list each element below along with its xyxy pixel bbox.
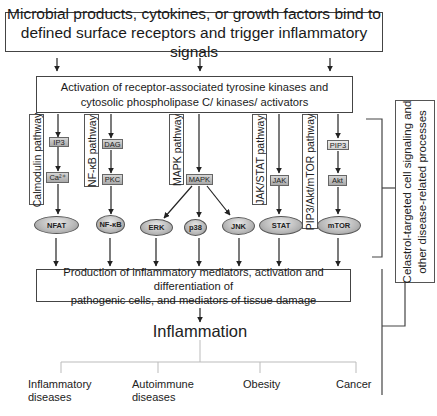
jakstat-pathway-text: JAK/STAT pathway xyxy=(254,115,266,204)
disease-inflammatory-line-2: diseases xyxy=(28,391,92,404)
node-calcium: Ca²⁺ xyxy=(46,172,69,183)
disease-autoimmune: Autoimmune diseases xyxy=(132,378,194,404)
production-line-2: pathogenic cells, and mediators of tissu… xyxy=(37,293,350,307)
effector-p38: p38 xyxy=(184,219,207,236)
effector-nfat: NFAT xyxy=(34,216,79,234)
celastrol-targets-box: Celastrol-targeted cell signaling and ot… xyxy=(395,100,435,283)
pip3-pathway-label: PIP3/Akt/mTOR pathway xyxy=(302,114,318,229)
disease-obesity: Obesity xyxy=(243,378,280,391)
nfkb-pathway-label: NF-κB pathway xyxy=(84,114,99,187)
jakstat-pathway-label: JAK/STAT pathway xyxy=(252,114,267,205)
disease-cancer-line-1: Cancer xyxy=(336,378,371,391)
effector-erk: ERK xyxy=(140,219,173,236)
nfkb-pathway-text: NF-κB pathway xyxy=(86,115,98,187)
celastrol-targets-text: Celastrol-targeted cell signaling and ot… xyxy=(400,100,430,283)
mapk-pathway-text: MAPK pathway xyxy=(171,114,183,186)
effector-stat: STAT xyxy=(259,216,303,235)
node-pip3: PIP3 xyxy=(327,140,349,150)
disease-cancer: Cancer xyxy=(336,378,371,391)
effector-mtor: mTOR xyxy=(317,216,361,235)
disease-inflammatory-line-1: Inflammatory xyxy=(28,378,92,391)
disease-autoimmune-line-1: Autoimmune xyxy=(132,378,194,391)
celastrol-line-1: Celastrol-targeted cell signaling and xyxy=(400,100,415,283)
trigger-line-1: Microbial products, cytokines, or growth… xyxy=(6,4,382,23)
node-akt: Akt xyxy=(328,175,347,186)
disease-inflammatory: Inflammatory diseases xyxy=(28,378,92,404)
activation-line-1: Activation of receptor-associated tyrosi… xyxy=(61,80,328,95)
effector-nfkb: NF-κB xyxy=(96,215,125,234)
node-mapk: MAPK xyxy=(186,174,213,185)
production-box: Production of inflammatory mediators, ac… xyxy=(36,269,351,302)
pip3-pathway-text: PIP3/Akt/mTOR pathway xyxy=(304,113,316,230)
node-dag: DAG xyxy=(102,139,123,149)
activation-line-2: cytosolic phospholipase C/ kinases/ acti… xyxy=(61,95,328,110)
trigger-box: Microbial products, cytokines, or growth… xyxy=(5,12,383,52)
node-jak: JAK xyxy=(270,175,289,186)
connector-lines xyxy=(0,0,437,416)
calmodulin-pathway-text: Calmodulin pathway xyxy=(31,112,43,207)
effector-jnk: JNK xyxy=(222,217,255,235)
inflammation-label: Inflammation xyxy=(150,322,250,341)
celastrol-line-2: other disease-related processes xyxy=(415,100,430,283)
node-pkc: PKC xyxy=(102,174,123,185)
calmodulin-pathway-label: Calmodulin pathway xyxy=(29,114,44,205)
trigger-line-2: defined surface receptors and trigger in… xyxy=(6,23,382,61)
activation-box: Activation of receptor-associated tyrosi… xyxy=(36,76,353,113)
node-ip3: IP3 xyxy=(49,137,69,147)
disease-obesity-line-1: Obesity xyxy=(243,378,280,391)
mapk-pathway-label: MAPK pathway xyxy=(169,114,184,185)
disease-autoimmune-line-2: diseases xyxy=(132,391,194,404)
production-line-1: Production of inflammatory mediators, ac… xyxy=(37,265,350,293)
